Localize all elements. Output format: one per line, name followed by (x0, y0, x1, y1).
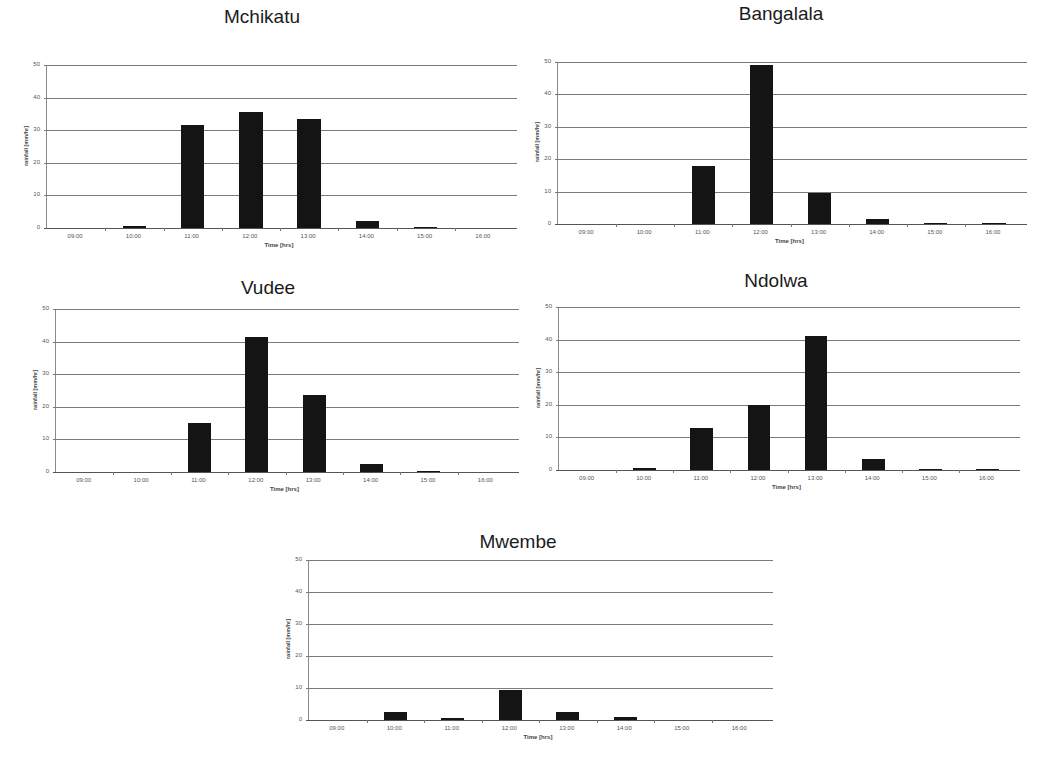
gridline (53, 439, 519, 440)
x-tick-mark (171, 472, 172, 475)
y-tick-label: 50 (26, 61, 40, 67)
y-tick-label: 0 (26, 224, 40, 230)
bar-1400 (862, 459, 885, 470)
bar-1000 (384, 712, 407, 720)
bar-1400 (614, 717, 637, 720)
bar-1400 (360, 464, 383, 472)
bar-1200 (245, 337, 268, 472)
x-tick-mark (338, 228, 339, 231)
plot-area (55, 309, 515, 472)
gridline (306, 688, 773, 689)
x-tick-mark (397, 228, 398, 231)
bar-1500 (417, 471, 440, 472)
x-tick-label: 10:00 (629, 475, 659, 481)
bar-1300 (303, 395, 326, 472)
y-tick-label: 40 (35, 338, 49, 344)
bar-1000 (633, 468, 656, 470)
gridline (44, 195, 517, 196)
x-tick-label: 09:00 (322, 725, 352, 731)
x-tick-mark (732, 224, 733, 227)
y-tick-label: 10 (288, 684, 302, 690)
bar-1300 (808, 193, 831, 224)
chart-title: Vudee (0, 277, 536, 299)
gridline (556, 307, 1020, 308)
x-axis-label: Time [hrs] (255, 486, 315, 492)
x-tick-label: 13:00 (298, 477, 328, 483)
x-tick-mark (965, 224, 966, 227)
x-tick-label: 13:00 (552, 725, 582, 731)
x-tick-label: 15:00 (410, 233, 440, 239)
x-tick-label: 15:00 (920, 229, 950, 235)
gridline (53, 309, 519, 310)
x-tick-mark (539, 720, 540, 723)
x-tick-mark (367, 720, 368, 723)
bar-1200 (499, 690, 522, 720)
x-tick-mark (222, 228, 223, 231)
y-tick-label: 0 (35, 468, 49, 474)
gridline (556, 437, 1020, 438)
x-tick-label: 11:00 (183, 477, 213, 483)
gridline (555, 62, 1027, 63)
x-tick-label: 13:00 (800, 475, 830, 481)
x-tick-label: 16:00 (978, 229, 1008, 235)
bar-1600 (976, 469, 999, 470)
x-tick-label: 09:00 (69, 477, 99, 483)
x-tick-mark (730, 470, 731, 473)
x-tick-label: 16:00 (470, 477, 500, 483)
gridline (44, 163, 517, 164)
x-tick-mark (907, 224, 908, 227)
y-tick-label: 10 (26, 191, 40, 197)
gridline (555, 192, 1027, 193)
gridline (555, 159, 1027, 160)
chart-title: Ndolwa (524, 270, 1028, 292)
x-tick-mark (286, 472, 287, 475)
x-tick-mark (105, 228, 106, 231)
y-tick-label: 0 (288, 716, 302, 722)
x-tick-label: 12:00 (241, 477, 271, 483)
y-tick-label: 50 (537, 58, 551, 64)
x-tick-label: 12:00 (745, 229, 775, 235)
bar-1200 (239, 112, 262, 228)
x-tick-label: 12:00 (743, 475, 773, 481)
x-tick-mark (113, 472, 114, 475)
x-tick-label: 11:00 (437, 725, 467, 731)
x-tick-mark (673, 470, 674, 473)
bar-1500 (924, 223, 947, 224)
gridline (556, 340, 1020, 341)
x-axis-label: Time [hrs] (249, 242, 309, 248)
y-axis-label: rainfall [mm/hr] (285, 609, 291, 669)
x-tick-label: 16:00 (971, 475, 1001, 481)
x-tick-mark (400, 472, 401, 475)
plot-area (557, 62, 1023, 224)
x-tick-label: 13:00 (804, 229, 834, 235)
bar-1400 (866, 219, 889, 224)
bar-1500 (414, 227, 437, 228)
gridline (44, 65, 517, 66)
y-tick-label: 50 (35, 305, 49, 311)
x-tick-mark (597, 720, 598, 723)
y-axis-label: rainfall [mm/hr] (535, 358, 541, 418)
chart-title: Mchikatu (0, 6, 524, 28)
x-tick-label: 14:00 (609, 725, 639, 731)
x-axis-label: Time [hrs] (508, 734, 568, 740)
bar-1300 (556, 712, 579, 720)
x-tick-label: 13:00 (293, 233, 323, 239)
y-tick-label: 0 (538, 466, 552, 472)
bar-1300 (805, 336, 828, 470)
x-tick-label: 09:00 (571, 229, 601, 235)
gridline (306, 560, 773, 561)
x-tick-mark (228, 472, 229, 475)
bar-1100 (181, 125, 204, 228)
x-tick-mark (280, 228, 281, 231)
x-axis-label: Time [hrs] (760, 238, 820, 244)
bar-1100 (441, 718, 464, 720)
y-tick-label: 40 (538, 336, 552, 342)
gridline (306, 656, 773, 657)
bar-1500 (919, 469, 942, 470)
x-tick-mark (791, 224, 792, 227)
x-tick-mark (164, 228, 165, 231)
gridline (53, 407, 519, 408)
bar-1100 (692, 166, 715, 224)
x-tick-mark (845, 470, 846, 473)
gridline (44, 98, 517, 99)
